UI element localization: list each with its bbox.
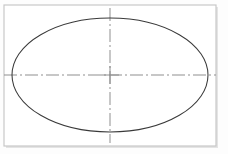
figure-root: Ellipse with centerlines (0, 0, 228, 154)
drawing-canvas (0, 0, 228, 154)
